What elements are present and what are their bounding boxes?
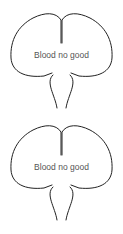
diagram-label: Blood no good (0, 50, 123, 60)
diagram-label: Blood no good (0, 162, 123, 172)
brain-diagram-top: Blood no good (0, 0, 123, 117)
brain-diagram-bottom: Blood no good (0, 112, 123, 229)
